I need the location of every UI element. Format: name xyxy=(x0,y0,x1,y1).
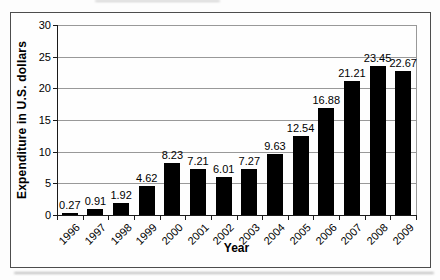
x-axis-tick xyxy=(390,216,391,220)
bar-1997 xyxy=(87,209,103,215)
x-axis-tick xyxy=(313,216,314,220)
gridline-15 xyxy=(57,120,416,121)
y-axis-tick-label: 25 xyxy=(39,51,51,63)
bar-2004 xyxy=(267,154,283,215)
bar-value-label: 7.27 xyxy=(239,155,260,168)
bar-1999 xyxy=(139,186,155,215)
chart-frame: Expenditure in U.S. dollars Year 0510152… xyxy=(10,12,431,268)
x-axis-tick xyxy=(185,216,186,220)
y-axis-title-text: Expenditure in U.S. dollars xyxy=(15,41,29,199)
y-axis-tick-label: 5 xyxy=(45,177,51,189)
bar-value-label: 21.21 xyxy=(338,67,366,80)
y-axis-line xyxy=(57,25,58,216)
x-axis-tick xyxy=(83,216,84,220)
x-axis-tick xyxy=(339,216,340,220)
y-axis-tick-label: 0 xyxy=(45,209,51,221)
bar-value-label: 4.62 xyxy=(136,172,157,185)
plot-right-border xyxy=(416,25,417,215)
x-axis-tick xyxy=(108,216,109,220)
y-axis-tick-label: 30 xyxy=(39,19,51,31)
bar-2009 xyxy=(395,71,411,215)
y-axis-title: Expenditure in U.S. dollars xyxy=(9,25,35,215)
x-axis-tick xyxy=(288,216,289,220)
bar-2006 xyxy=(318,108,334,215)
bar-2001 xyxy=(190,169,206,215)
bar-value-label: 0.91 xyxy=(85,195,106,208)
scanned-page-background: Expenditure in U.S. dollars Year 0510152… xyxy=(0,0,440,280)
bar-1998 xyxy=(113,203,129,215)
x-axis-title: Year xyxy=(57,241,416,255)
bar-value-label: 8.23 xyxy=(162,149,183,162)
bar-value-label: 0.27 xyxy=(59,199,80,212)
bar-value-label: 23.45 xyxy=(364,52,392,65)
x-axis-tick xyxy=(262,216,263,220)
bar-value-label: 22.67 xyxy=(389,57,417,70)
x-axis-tick xyxy=(160,216,161,220)
bar-value-label: 7.21 xyxy=(187,155,208,168)
y-axis-tick-label: 20 xyxy=(39,82,51,94)
bar-value-label: 12.54 xyxy=(287,122,315,135)
bar-2005 xyxy=(293,136,309,215)
bar-2002 xyxy=(216,177,232,215)
bar-value-label: 1.92 xyxy=(110,189,131,202)
scan-artifact-top xyxy=(95,0,220,2)
bar-2008 xyxy=(370,66,386,215)
bar-value-label: 6.01 xyxy=(213,163,234,176)
x-axis-tick xyxy=(237,216,238,220)
gridline-25 xyxy=(57,57,416,58)
x-axis-tick xyxy=(416,216,417,220)
scan-artifact-bottom xyxy=(14,272,434,274)
gridline-5 xyxy=(57,183,416,184)
y-axis-tick-label: 15 xyxy=(39,114,51,126)
y-axis-tick-label: 10 xyxy=(39,146,51,158)
x-axis-tick xyxy=(57,216,58,220)
gridline-30 xyxy=(57,25,416,26)
gridline-20 xyxy=(57,88,416,89)
bar-value-label: 16.88 xyxy=(312,94,340,107)
bar-2007 xyxy=(344,81,360,215)
bar-value-label: 9.63 xyxy=(264,140,285,153)
x-axis-tick xyxy=(211,216,212,220)
bar-2003 xyxy=(241,169,257,215)
bar-2000 xyxy=(164,163,180,215)
gridline-10 xyxy=(57,152,416,153)
x-axis-tick xyxy=(134,216,135,220)
bar-1996 xyxy=(62,213,78,215)
x-axis-tick xyxy=(365,216,366,220)
